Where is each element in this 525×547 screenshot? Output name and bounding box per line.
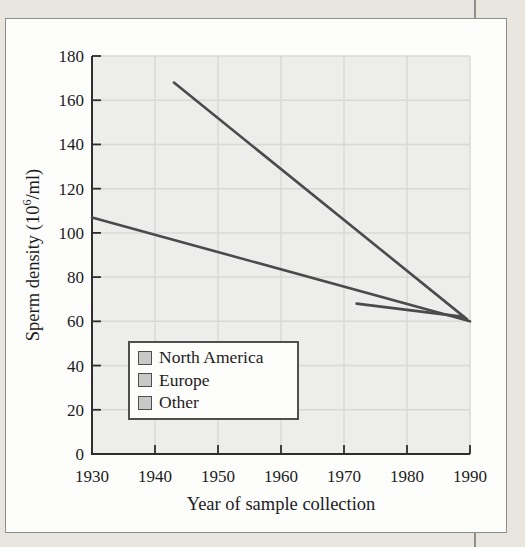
y-tick-label: 80 <box>67 268 84 287</box>
x-tick-label: 1990 <box>453 467 487 486</box>
y-axis-title: Sperm density (106/ml) <box>20 169 43 342</box>
y-tick-label: 100 <box>59 224 85 243</box>
legend-swatch <box>138 351 152 365</box>
y-tick-label: 20 <box>67 401 84 420</box>
y-tick-label: 40 <box>67 357 84 376</box>
x-axis-title: Year of sample collection <box>187 494 376 515</box>
y-tick-label: 180 <box>59 47 85 66</box>
x-tick-label: 1940 <box>138 467 172 486</box>
y-axis-title-text: Sperm density (10 <box>23 206 43 342</box>
y-axis-title-unit: /ml) <box>23 169 43 200</box>
x-tick-label: 1980 <box>390 467 424 486</box>
legend-row: Other <box>138 394 289 412</box>
y-tick-label: 140 <box>59 135 85 154</box>
legend-label: Europe <box>159 372 210 390</box>
sperm-density-chart: 0204060801001201401601801930194019501960… <box>6 19 506 532</box>
y-tick-label: 120 <box>59 180 85 199</box>
x-tick-label: 1930 <box>75 467 109 486</box>
legend-swatch <box>138 396 152 410</box>
legend-row: Europe <box>138 372 289 390</box>
x-tick-label: 1970 <box>327 467 361 486</box>
legend-label: Other <box>159 394 199 412</box>
y-tick-label: 0 <box>76 445 85 464</box>
x-tick-label: 1950 <box>201 467 235 486</box>
legend-row: North America <box>138 349 289 367</box>
chart-legend: North AmericaEuropeOther <box>128 341 299 420</box>
y-axis-title-sup: 6 <box>20 200 34 206</box>
legend-swatch <box>138 373 152 387</box>
y-tick-label: 160 <box>59 91 85 110</box>
legend-label: North America <box>159 349 263 367</box>
figure-card: 0204060801001201401601801930194019501960… <box>5 18 507 533</box>
y-tick-label: 60 <box>67 312 84 331</box>
x-tick-label: 1960 <box>264 467 298 486</box>
page-background: 0204060801001201401601801930194019501960… <box>0 0 525 547</box>
